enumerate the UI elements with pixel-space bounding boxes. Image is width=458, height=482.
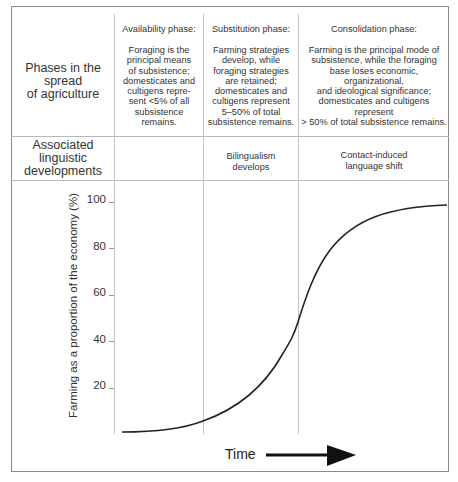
x-axis-label-time: Time [225, 446, 256, 462]
chart-graphics [0, 0, 458, 482]
time-arrow-icon [266, 445, 356, 466]
farming-s-curve [122, 205, 447, 432]
